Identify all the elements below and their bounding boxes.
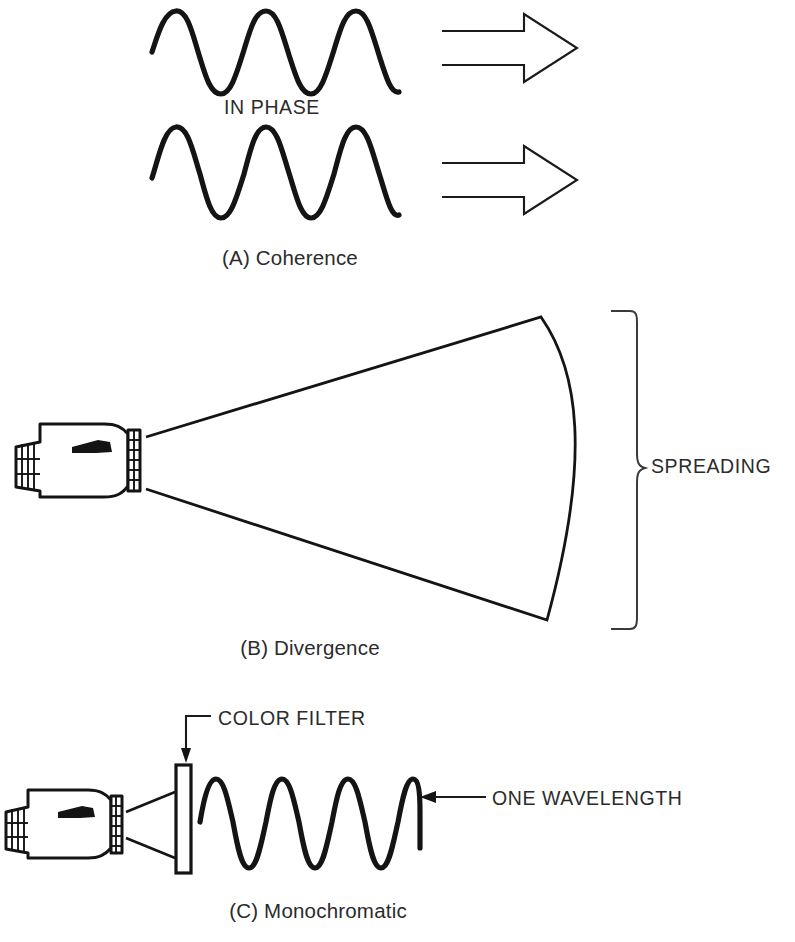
panel-c-caption: (C) Monochromatic	[229, 899, 407, 923]
color-filter-leader-arrowhead	[181, 748, 191, 763]
wave-monochromatic	[200, 779, 420, 868]
spreading-brace-path	[611, 311, 645, 629]
divergence-cone	[146, 317, 575, 620]
panel-a-coherence	[152, 11, 577, 218]
panel-c-monochromatic	[6, 716, 486, 873]
panel-b-caption: (B) Divergence	[240, 636, 380, 660]
laser-properties-figure: IN PHASE (A) Coherence SPREADING (B) Div…	[0, 0, 795, 942]
wave-bottom	[152, 127, 399, 218]
panel-a-caption: (A) Coherence	[222, 246, 358, 270]
wave-top	[152, 11, 399, 94]
direction-arrow-top	[442, 14, 577, 82]
color-filter-leader-line	[186, 716, 211, 752]
color-filter-plate	[176, 765, 191, 873]
in-phase-label: IN PHASE	[224, 96, 320, 119]
direction-arrow-bottom	[442, 146, 577, 214]
color-filter-label: COLOR FILTER	[218, 707, 366, 730]
light-ray-lower	[126, 838, 175, 858]
light-ray-upper	[126, 792, 175, 812]
flashlight-c-body	[6, 790, 111, 858]
flashlight-b-body	[16, 424, 128, 497]
one-wavelength-label: ONE WAVELENGTH	[492, 787, 682, 810]
spreading-label: SPREADING	[651, 455, 771, 478]
panel-b-divergence	[16, 317, 575, 620]
spreading-brace	[611, 311, 645, 629]
